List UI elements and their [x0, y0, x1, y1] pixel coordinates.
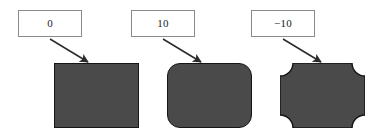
value-box-0-label: 0 — [47, 18, 53, 29]
arrow-1 — [163, 39, 201, 62]
corner-radius-figure: 0 10 −10 — [0, 0, 382, 138]
arrow-2 — [283, 39, 321, 62]
shape-concave-corner-rectangle — [280, 63, 365, 128]
value-box-0: 0 — [18, 10, 82, 37]
value-box-2: −10 — [251, 10, 315, 37]
value-box-1: 10 — [131, 10, 195, 37]
shape-sharp-rectangle — [54, 63, 139, 128]
concave-shape-path — [280, 63, 365, 128]
value-box-1-label: 10 — [157, 18, 168, 29]
concave-shape-svg — [280, 63, 365, 128]
shape-rounded-rectangle — [167, 63, 252, 128]
value-box-2-label: −10 — [274, 18, 292, 29]
arrow-0 — [50, 39, 88, 62]
